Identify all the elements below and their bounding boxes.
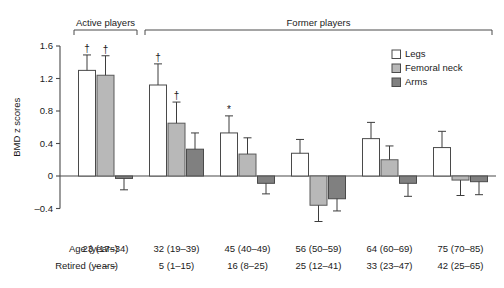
age-row-value: 23 (17–34) [83,243,129,254]
bar-legs[interactable] [292,153,309,176]
age-row-value: 64 (60–69) [367,243,413,254]
retired-row-value: 42 (25–65) [438,260,484,271]
bar-femoral-neck[interactable] [239,154,256,176]
bar-arms[interactable] [187,149,204,176]
significance-marker: † [103,44,109,55]
bar-arms[interactable] [471,176,488,182]
femoral-neck-swatch [392,64,401,73]
arms-swatch [392,78,401,87]
group-header-active-players: Active players [76,17,135,28]
significance-marker: † [174,90,180,101]
bar-femoral-neck[interactable] [168,123,185,176]
bar-femoral-neck[interactable] [381,160,398,176]
age-row-value: 32 (19–39) [154,243,200,254]
bar-arms[interactable] [329,176,346,199]
retired-row-value: – – – [95,260,117,271]
y-axis-title: BMD z scores [11,97,22,156]
age-row-value: 45 (40–49) [225,243,271,254]
group-bracket [145,30,492,35]
significance-marker: † [155,52,161,63]
retired-row-value: 5 (1–15) [159,260,194,271]
significance-marker: † [84,43,90,54]
group-bracket [74,30,137,35]
legend-label: Femoral neck [405,62,463,73]
y-axis-tick-label: 0.8 [40,105,53,116]
group-header-former-players: Former players [287,17,351,28]
y-axis-tick-label: 0.4 [40,138,53,149]
age-row-value: 56 (50–59) [296,243,342,254]
bar-femoral-neck[interactable] [310,176,327,205]
y-axis-tick-label: –0.4 [35,203,54,214]
bar-legs[interactable] [150,85,167,176]
y-axis-tick-label: 1.6 [40,40,53,51]
bar-femoral-neck[interactable] [452,176,469,180]
bar-femoral-neck[interactable] [97,75,114,176]
bmd-z-scores-figure: 1.61.20.80.40–0.4BMD z scoresActive play… [0,0,504,288]
bmd-chart: 1.61.20.80.40–0.4BMD z scoresActive play… [0,0,504,288]
y-axis-tick-label: 1.2 [40,73,53,84]
bar-legs[interactable] [363,139,380,176]
legend-label: Legs [405,48,426,59]
bar-arms[interactable] [258,176,275,183]
bar-legs[interactable] [221,133,238,176]
bar-arms[interactable] [116,176,133,178]
age-row-value: 75 (70–85) [438,243,484,254]
y-axis-tick-label: 0 [48,170,53,181]
bar-arms[interactable] [400,176,417,183]
legend-label: Arms [405,76,427,87]
retired-row-value: 25 (12–41) [296,260,342,271]
legs-swatch [392,50,401,59]
bar-legs[interactable] [79,70,96,176]
retired-row-value: 16 (8–25) [227,260,268,271]
bar-legs[interactable] [434,148,451,176]
retired-row-value: 33 (23–47) [367,260,413,271]
significance-marker: * [227,104,231,115]
